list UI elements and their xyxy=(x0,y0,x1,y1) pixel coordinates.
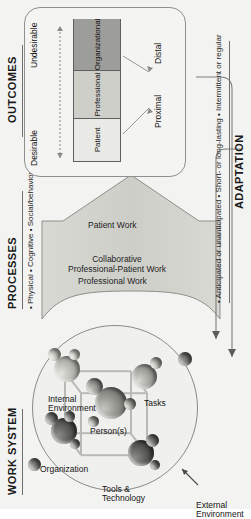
adaptation-rule xyxy=(229,41,230,303)
label-organization-text: Organization xyxy=(40,464,88,474)
arrow-label-patient-work: Patient Work xyxy=(88,221,137,231)
processes-heading: PROCESSES xyxy=(6,237,18,309)
callout-proximal: Proximal xyxy=(153,95,163,128)
outcomes-box: Desirable Undesirable Patient Profession… xyxy=(24,7,186,177)
label-tasks: Tasks xyxy=(144,399,166,408)
label-tools-technology: Tools & Technology xyxy=(102,485,145,503)
label-tools-line2: Technology xyxy=(102,494,145,503)
arrow-label-patient-text: Patient Work xyxy=(88,220,137,230)
label-persons-text: Person(s) xyxy=(90,426,127,436)
outcome-segment-professional: Professional xyxy=(74,70,120,118)
outcome-segment-professional-label: Professional xyxy=(93,72,102,116)
node-tasks-sat xyxy=(150,357,162,369)
label-internal-environment: Internal Environment xyxy=(48,395,96,413)
proximal-distal-leaders-icon xyxy=(119,32,179,152)
node-tools-technology-sat xyxy=(146,434,159,447)
arrow-label-collab-line2: Professional-Patient Work xyxy=(68,265,166,275)
callout-distal-text: Distal xyxy=(153,43,163,64)
axis-label-desirable: Desirable xyxy=(29,130,39,166)
node-internal-environment-sat xyxy=(69,349,80,360)
node-persons-sat xyxy=(86,378,103,395)
label-organization: Organization xyxy=(40,465,88,474)
axis-label-desirable-text: Desirable xyxy=(29,130,39,166)
outcome-segment-organizational-label: Organizational xyxy=(93,19,102,71)
arrow-label-professional-work: Professional Work xyxy=(78,277,147,287)
node-persons-sat xyxy=(124,398,136,410)
outcomes-rule xyxy=(22,45,23,137)
external-env-line2: Environment xyxy=(196,510,244,519)
adaptation-bullets: • Anticipated or unanticipated • Short- … xyxy=(214,34,223,303)
label-persons: Person(s) xyxy=(90,427,127,436)
label-tasks-text: Tasks xyxy=(144,398,166,408)
outcome-segment-patient-label: Patient xyxy=(93,127,102,152)
adaptation-heading: ADAPTATION xyxy=(233,135,245,209)
work-system-rule xyxy=(22,409,23,495)
arrow-label-professional-text: Professional Work xyxy=(78,276,147,286)
node-tools-technology-sat xyxy=(150,460,160,470)
work-system-heading: WORK SYSTEM xyxy=(6,407,18,495)
label-external-environment: External Environment xyxy=(196,501,244,519)
callout-distal: Distal xyxy=(153,43,163,64)
desirability-axis-icon xyxy=(45,16,75,166)
outcome-segment-organizational: Organizational xyxy=(74,19,120,71)
outcomes-bar: Patient Professional Organizational xyxy=(73,19,121,162)
outcome-segment-patient: Patient xyxy=(74,118,120,161)
callout-proximal-text: Proximal xyxy=(153,95,163,128)
label-internal-line2: Environment xyxy=(48,404,96,413)
node-organization-sat xyxy=(45,412,58,425)
axis-label-undesirable-text: Undesirable xyxy=(29,23,39,68)
outcomes-heading: OUTCOMES xyxy=(6,56,18,123)
arrow-label-collaborative-work: Collaborative Professional-Patient Work xyxy=(68,255,166,275)
axis-label-undesirable: Undesirable xyxy=(29,23,39,68)
processes-arrow-group: Professional Work Collaborative Professi… xyxy=(22,171,212,321)
node-internal-environment-sat xyxy=(48,348,61,361)
node-organization-sat xyxy=(70,439,80,449)
